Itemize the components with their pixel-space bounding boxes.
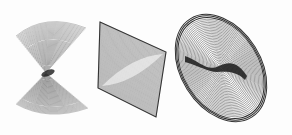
string-art-figures [0,0,292,135]
saddle-bowtie-figure [16,22,88,115]
rhombus-envelope-figure [98,22,166,117]
concentric-ellipse-figure [156,0,285,135]
figure-canvas [0,0,292,135]
